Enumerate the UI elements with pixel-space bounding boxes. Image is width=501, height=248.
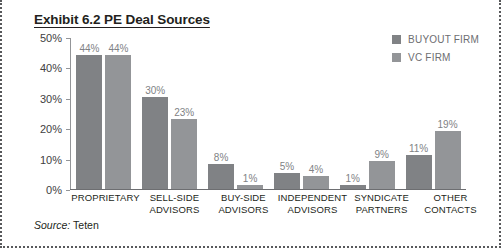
bar-slot: 1% — [237, 38, 263, 189]
bar-group: 30%23% — [137, 38, 203, 189]
source-value: Teten — [73, 219, 99, 231]
bar-slot: 9% — [369, 38, 395, 189]
y-axis-tick-label: 50% — [40, 32, 62, 44]
bar-slot: 5% — [274, 38, 300, 189]
bar-groups: 44%44%30%23%8%1%5%4%1%9%11%19% — [71, 38, 466, 189]
y-axis-tick-mark — [66, 68, 70, 69]
x-axis-category-line: ADVISORS — [140, 204, 209, 216]
bar-value-label: 1% — [345, 173, 359, 184]
bar-value-label: 44% — [108, 43, 128, 54]
bar-group: 1%9% — [334, 38, 400, 189]
x-axis-category-label: SELL-SIDEADVISORS — [140, 192, 209, 215]
x-axis-category-line: ADVISORS — [209, 204, 278, 216]
x-axis-labels: PROPRIETARYSELL-SIDEADVISORSBUY-SIDEADVI… — [71, 192, 485, 215]
bar-value-label: 19% — [438, 119, 458, 130]
x-axis-category-line: ADVISORS — [278, 204, 347, 216]
source-note: Source: Teten — [34, 219, 99, 231]
x-axis-category-line: OTHER — [416, 192, 485, 204]
bar-group: 44%44% — [71, 38, 137, 189]
y-axis-tick-mark — [66, 190, 70, 191]
bar[interactable] — [303, 176, 329, 188]
bar-value-label: 30% — [145, 85, 165, 96]
bar-value-label: 44% — [79, 43, 99, 54]
x-axis-category-line: SYNDICATE — [347, 192, 416, 204]
bar[interactable] — [274, 173, 300, 188]
y-axis-tick-label: 30% — [40, 93, 62, 105]
figure-inner: Exhibit 6.2 PE Deal Sources BUYOUT FIRM … — [16, 0, 485, 246]
bar-slot: 8% — [208, 38, 234, 189]
bar[interactable] — [208, 164, 234, 188]
bar-value-label: 4% — [309, 164, 323, 175]
source-prefix: Source: — [34, 219, 70, 231]
bar-value-label: 11% — [409, 143, 428, 154]
x-axis-category-line: BUY-SIDE — [209, 192, 278, 204]
y-axis-tick-mark — [66, 38, 70, 39]
bar[interactable] — [369, 161, 395, 188]
x-axis-category-line: CONTACTS — [416, 204, 485, 216]
bar[interactable] — [171, 119, 197, 189]
bar-slot: 11% — [406, 38, 432, 189]
bar-value-label: 5% — [280, 161, 294, 172]
y-axis-tick-mark — [66, 99, 70, 100]
bar-value-label: 23% — [174, 107, 194, 118]
bar[interactable] — [406, 155, 432, 188]
y-axis-tick-mark — [66, 129, 70, 130]
bar-slot: 30% — [142, 38, 168, 189]
bar-value-label: 8% — [214, 152, 228, 163]
bar-slot: 1% — [340, 38, 366, 189]
x-axis-category-line: PARTNERS — [347, 204, 416, 216]
page-title: Exhibit 6.2 PE Deal Sources — [34, 12, 210, 27]
bar-slot: 23% — [171, 38, 197, 189]
x-axis-category-line: PROPRIETARY — [71, 192, 140, 204]
x-axis-category-label: BUY-SIDEADVISORS — [209, 192, 278, 215]
bar[interactable] — [340, 185, 366, 188]
x-axis-line — [70, 189, 466, 191]
x-axis-category-label: PROPRIETARY — [71, 192, 140, 215]
y-axis-tick-label: 40% — [40, 62, 62, 74]
y-axis: 50%40%30%20%10%0% — [34, 38, 66, 190]
bar[interactable] — [435, 131, 461, 189]
bar-group: 11%19% — [400, 38, 466, 189]
y-axis-tick-mark — [66, 160, 70, 161]
bar-slot: 44% — [76, 38, 102, 189]
x-axis-category-line: INDEPENDENT — [278, 192, 347, 204]
bar[interactable] — [105, 55, 131, 189]
bar-slot: 44% — [105, 38, 131, 189]
exhibit-figure: Exhibit 6.2 PE Deal Sources BUYOUT FIRM … — [0, 0, 501, 248]
bar-slot: 4% — [303, 38, 329, 189]
y-axis-tick-label: 20% — [40, 123, 62, 135]
y-axis-tick-label: 10% — [40, 154, 62, 166]
bar[interactable] — [237, 185, 263, 188]
chart-plot-area: 50%40%30%20%10%0% 44%44%30%23%8%1%5%4%1%… — [34, 38, 466, 190]
x-axis-category-line: SELL-SIDE — [140, 192, 209, 204]
bar-slot: 19% — [435, 38, 461, 189]
bar-value-label: 9% — [374, 149, 388, 160]
x-axis-category-label: SYNDICATEPARTNERS — [347, 192, 416, 215]
bar-value-label: 1% — [243, 173, 257, 184]
bar-group: 8%1% — [203, 38, 269, 189]
bar-group: 5%4% — [268, 38, 334, 189]
x-axis-category-label: OTHERCONTACTS — [416, 192, 485, 215]
y-axis-tick-label: 0% — [46, 184, 62, 196]
bar[interactable] — [142, 97, 168, 188]
x-axis-category-label: INDEPENDENTADVISORS — [278, 192, 347, 215]
bar[interactable] — [76, 55, 102, 189]
